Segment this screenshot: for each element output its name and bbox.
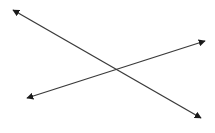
intersecting-lines-diagram [0, 0, 215, 133]
line-a [13, 10, 201, 118]
line-b [27, 41, 205, 98]
